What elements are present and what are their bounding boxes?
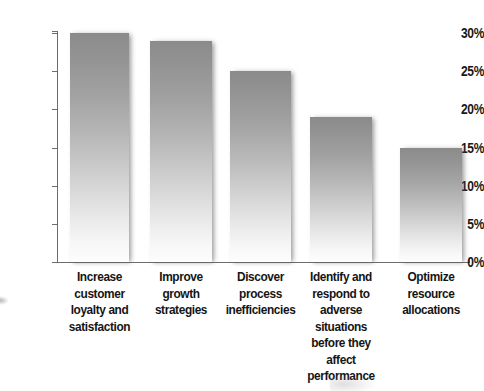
bar-fill <box>400 148 462 263</box>
category-label: Discover process inefficiencies <box>220 269 302 319</box>
category-label: Increase customer loyalty and satisfacti… <box>59 269 139 335</box>
bar <box>310 117 372 262</box>
y-axis-tick <box>52 33 57 34</box>
y-axis-label: 20% <box>444 102 484 116</box>
bar-fill <box>310 117 372 262</box>
bar <box>230 71 291 262</box>
bar-fill <box>150 41 212 262</box>
y-axis-line <box>57 31 58 263</box>
y-axis-tick <box>52 224 57 225</box>
bar-fill <box>70 33 129 262</box>
category-label: Optimize resource allocations <box>390 269 473 319</box>
y-axis-top-cap <box>52 31 57 32</box>
y-axis-tick <box>52 148 57 149</box>
y-axis-tick <box>52 109 57 110</box>
y-axis-tick <box>52 262 57 263</box>
y-axis-label: 30% <box>444 26 484 40</box>
category-label: Identify and respond to adverse situatio… <box>300 269 383 385</box>
y-axis-tick <box>52 186 57 187</box>
bar-fill <box>230 71 291 262</box>
y-axis-label: 25% <box>444 64 484 78</box>
y-axis-tick <box>52 71 57 72</box>
bar-chart: 0%5%10%15%20%25%30% Increase customer lo… <box>0 0 484 391</box>
category-label: Improve growth strategies <box>140 269 223 319</box>
scan-artifact-secondary <box>330 374 376 391</box>
bar <box>400 148 462 263</box>
bar <box>70 33 129 262</box>
scan-artifact <box>0 296 9 305</box>
bar <box>150 41 212 262</box>
x-axis-line <box>57 262 470 263</box>
